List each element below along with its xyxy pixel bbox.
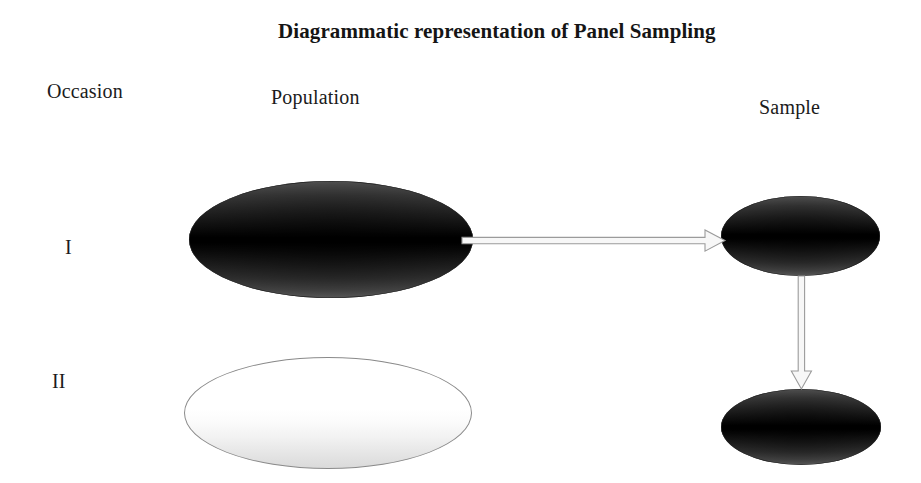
arrow-population-to-sample bbox=[462, 228, 726, 254]
arrow-sample-to-sample bbox=[789, 276, 815, 390]
arrow-down-glyph bbox=[791, 276, 811, 389]
row-label-occasion-1: I bbox=[65, 236, 72, 259]
column-header-population: Population bbox=[271, 86, 360, 109]
arrow-right-glyph bbox=[462, 230, 725, 251]
population-ellipse-occasion-1 bbox=[189, 181, 473, 298]
diagram-canvas: Diagrammatic representation of Panel Sam… bbox=[0, 0, 921, 483]
population-ellipse-occasion-2 bbox=[184, 357, 472, 469]
column-header-sample: Sample bbox=[759, 96, 820, 119]
sample-ellipse-occasion-1 bbox=[721, 196, 880, 276]
sample-ellipse-occasion-2 bbox=[721, 389, 881, 465]
row-label-occasion-2: II bbox=[52, 370, 66, 393]
column-header-occasion: Occasion bbox=[47, 80, 123, 103]
page-title: Diagrammatic representation of Panel Sam… bbox=[278, 19, 716, 44]
